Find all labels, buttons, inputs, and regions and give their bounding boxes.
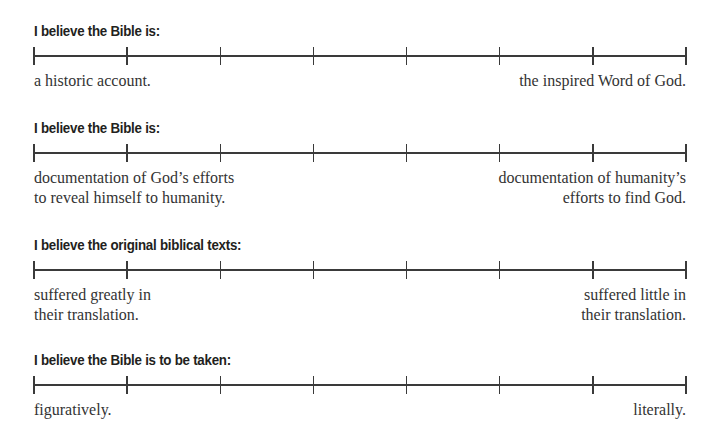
left-anchor-label: documentation of God’s efforts to reveal… [34, 168, 234, 208]
rating-scale-line[interactable] [34, 261, 686, 279]
tick-2[interactable] [126, 261, 128, 279]
tick-5[interactable] [406, 144, 408, 162]
scale-4: I believe the Bible is to be taken: figu… [34, 350, 686, 420]
right-anchor-label: the inspired Word of God. [519, 71, 686, 91]
right-anchor-label: documentation of humanity’s efforts to f… [498, 168, 686, 208]
right-anchor-label: suffered little in their translation. [581, 285, 686, 325]
right-anchor-label: literally. [633, 400, 686, 420]
tick-6[interactable] [499, 376, 501, 394]
tick-4[interactable] [313, 144, 315, 162]
tick-3[interactable] [220, 47, 222, 65]
tick-1[interactable] [33, 376, 35, 394]
tick-2[interactable] [126, 144, 128, 162]
scale-bar [34, 269, 686, 271]
tick-7[interactable] [592, 47, 594, 65]
scale-2: I believe the Bible is: documentation of… [34, 118, 686, 208]
scale-bar [34, 384, 686, 386]
scale-1: I believe the Bible is: a historic accou… [34, 21, 686, 91]
scale-labels: a historic account. the inspired Word of… [34, 71, 686, 91]
tick-3[interactable] [220, 144, 222, 162]
scale-labels: figuratively. literally. [34, 400, 686, 420]
tick-3[interactable] [220, 376, 222, 394]
rating-scale-line[interactable] [34, 144, 686, 162]
tick-7[interactable] [592, 261, 594, 279]
scale-labels: suffered greatly in their translation. s… [34, 285, 686, 325]
scale-title: I believe the Bible is: [34, 118, 595, 138]
tick-1[interactable] [33, 261, 35, 279]
scale-title: I believe the Bible is: [34, 21, 595, 41]
scale-bar [34, 152, 686, 154]
tick-8[interactable] [685, 261, 687, 279]
scale-title: I believe the original biblical texts: [34, 235, 595, 255]
tick-5[interactable] [406, 376, 408, 394]
tick-4[interactable] [313, 376, 315, 394]
scale-3: I believe the original biblical texts: s… [34, 235, 686, 325]
scale-bar [34, 55, 686, 57]
left-anchor-label: suffered greatly in their translation. [34, 285, 151, 325]
tick-2[interactable] [126, 376, 128, 394]
tick-7[interactable] [592, 144, 594, 162]
scale-labels: documentation of God’s efforts to reveal… [34, 168, 686, 208]
tick-6[interactable] [499, 47, 501, 65]
tick-6[interactable] [499, 261, 501, 279]
left-anchor-label: a historic account. [34, 71, 151, 91]
tick-2[interactable] [126, 47, 128, 65]
tick-8[interactable] [685, 376, 687, 394]
tick-1[interactable] [33, 144, 35, 162]
tick-8[interactable] [685, 47, 687, 65]
rating-scale-line[interactable] [34, 47, 686, 65]
tick-8[interactable] [685, 144, 687, 162]
left-anchor-label: figuratively. [34, 400, 112, 420]
rating-scale-line[interactable] [34, 376, 686, 394]
tick-4[interactable] [313, 261, 315, 279]
tick-6[interactable] [499, 144, 501, 162]
tick-5[interactable] [406, 47, 408, 65]
tick-4[interactable] [313, 47, 315, 65]
tick-3[interactable] [220, 261, 222, 279]
tick-5[interactable] [406, 261, 408, 279]
scale-title: I believe the Bible is to be taken: [34, 350, 595, 370]
tick-1[interactable] [33, 47, 35, 65]
tick-7[interactable] [592, 376, 594, 394]
